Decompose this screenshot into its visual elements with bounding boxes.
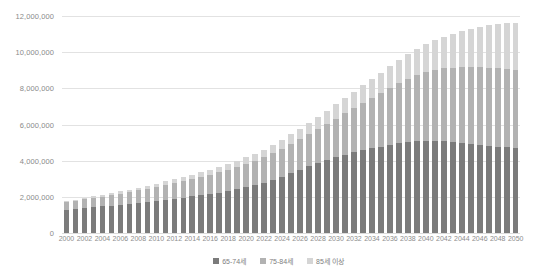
bar-column[interactable] xyxy=(98,16,107,233)
bar-segment xyxy=(315,117,321,129)
bar-segment xyxy=(189,179,195,197)
bar-column[interactable] xyxy=(305,16,314,233)
bar-stack xyxy=(216,167,222,233)
bar-stack xyxy=(432,40,438,233)
bar-column[interactable] xyxy=(448,16,457,233)
bar-column[interactable] xyxy=(376,16,385,233)
bar-column[interactable] xyxy=(412,16,421,233)
bar-segment xyxy=(387,88,393,145)
bar-column[interactable] xyxy=(62,16,71,233)
bar-column[interactable] xyxy=(170,16,179,233)
legend-item[interactable]: 75-84세 xyxy=(260,256,293,266)
bar-segment xyxy=(351,92,357,108)
bar-column[interactable] xyxy=(233,16,242,233)
bar-column[interactable] xyxy=(287,16,296,233)
bar-column[interactable] xyxy=(188,16,197,233)
bar-stack xyxy=(145,186,151,233)
bar-column[interactable] xyxy=(206,16,215,233)
bar-column[interactable] xyxy=(152,16,161,233)
x-axis-tick-slot: 2038 xyxy=(403,235,412,249)
legend-item[interactable]: 65-74세 xyxy=(213,256,246,266)
bar-segment xyxy=(198,177,204,196)
bar-column[interactable] xyxy=(80,16,89,233)
bar-column[interactable] xyxy=(358,16,367,233)
bar-segment xyxy=(73,201,79,209)
x-axis-tick-slot: 2000 xyxy=(62,235,71,249)
bar-column[interactable] xyxy=(341,16,350,233)
bar-series-container xyxy=(62,16,520,233)
bar-segment xyxy=(459,67,465,142)
y-axis-tick-label: 4,000,000 xyxy=(20,156,54,165)
bar-segment xyxy=(270,153,276,180)
bar-column[interactable] xyxy=(502,16,511,233)
bar-column[interactable] xyxy=(215,16,224,233)
bar-segment xyxy=(252,154,258,161)
bar-segment xyxy=(351,108,357,152)
bar-column[interactable] xyxy=(107,16,116,233)
bar-column[interactable] xyxy=(421,16,430,233)
bar-column[interactable] xyxy=(71,16,80,233)
bar-segment xyxy=(225,191,231,233)
bar-column[interactable] xyxy=(332,16,341,233)
bar-segment xyxy=(369,79,375,98)
bar-column[interactable] xyxy=(116,16,125,233)
bar-stack xyxy=(459,31,465,233)
bar-column[interactable] xyxy=(134,16,143,233)
bar-column[interactable] xyxy=(143,16,152,233)
bar-column[interactable] xyxy=(314,16,323,233)
bar-column[interactable] xyxy=(457,16,466,233)
x-axis-tick-slot: 2010 xyxy=(152,235,161,249)
bar-column[interactable] xyxy=(242,16,251,233)
bar-segment xyxy=(252,185,258,233)
x-axis-tick-slot: 2006 xyxy=(116,235,125,249)
bar-column[interactable] xyxy=(269,16,278,233)
bar-column[interactable] xyxy=(475,16,484,233)
bar-column[interactable] xyxy=(403,16,412,233)
bar-column[interactable] xyxy=(430,16,439,233)
bar-segment xyxy=(261,150,267,158)
bar-column[interactable] xyxy=(89,16,98,233)
bar-column[interactable] xyxy=(350,16,359,233)
bar-column[interactable] xyxy=(511,16,520,233)
bar-segment xyxy=(495,68,501,146)
bar-column[interactable] xyxy=(197,16,206,233)
bar-column[interactable] xyxy=(296,16,305,233)
bar-segment xyxy=(109,195,115,205)
bar-segment xyxy=(324,160,330,233)
bar-column[interactable] xyxy=(125,16,134,233)
bar-column[interactable] xyxy=(179,16,188,233)
bar-column[interactable] xyxy=(439,16,448,233)
x-axis-tick-slot: 2002 xyxy=(80,235,89,249)
bar-column[interactable] xyxy=(323,16,332,233)
bar-stack xyxy=(360,85,366,233)
bar-stack xyxy=(342,98,348,233)
bar-segment xyxy=(486,25,492,67)
legend-item[interactable]: 85세 이상 xyxy=(307,256,344,266)
bar-column[interactable] xyxy=(161,16,170,233)
bar-segment xyxy=(243,157,249,164)
bar-column[interactable] xyxy=(251,16,260,233)
bar-stack xyxy=(450,34,456,233)
x-axis-tick-slot: 2030 xyxy=(332,235,341,249)
x-axis-tick-slot: 2024 xyxy=(278,235,287,249)
bar-segment xyxy=(270,145,276,153)
bar-segment xyxy=(234,167,240,189)
bar-column[interactable] xyxy=(484,16,493,233)
bar-stack xyxy=(414,49,420,233)
x-axis-tick-slot: 2022 xyxy=(260,235,269,249)
bar-column[interactable] xyxy=(278,16,287,233)
bar-column[interactable] xyxy=(466,16,475,233)
bar-segment xyxy=(414,75,420,141)
bar-column[interactable] xyxy=(493,16,502,233)
bar-column[interactable] xyxy=(394,16,403,233)
bar-column[interactable] xyxy=(260,16,269,233)
bar-stack xyxy=(109,193,115,233)
bar-column[interactable] xyxy=(367,16,376,233)
bar-segment xyxy=(450,142,456,233)
bar-stack xyxy=(252,154,258,233)
bar-stack xyxy=(513,23,519,233)
bar-column[interactable] xyxy=(385,16,394,233)
bar-column[interactable] xyxy=(224,16,233,233)
bar-stack xyxy=(261,150,267,233)
bar-segment xyxy=(504,69,510,147)
